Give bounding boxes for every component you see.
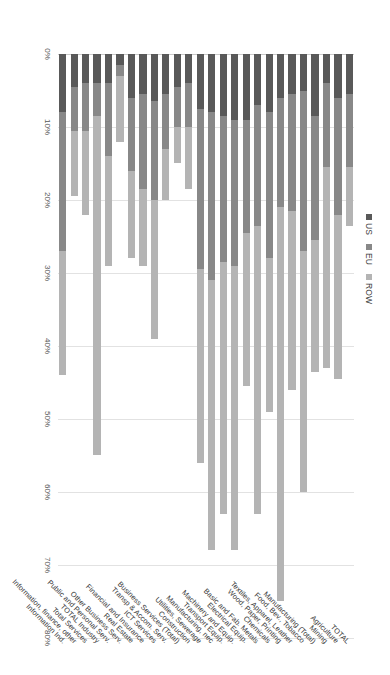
stacked-bar[interactable] — [82, 54, 89, 215]
bar-segment-row — [231, 266, 238, 551]
bar-row[interactable] — [116, 54, 123, 638]
stacked-bar[interactable] — [300, 54, 307, 492]
bar-segment-us — [197, 54, 204, 109]
axis-tick-label: 70% — [43, 557, 52, 573]
bar-segment-eu — [266, 112, 273, 258]
plot-area — [58, 54, 354, 638]
bar-segment-row — [197, 269, 204, 462]
bar-row[interactable] — [197, 54, 204, 638]
stacked-bar[interactable] — [197, 54, 204, 463]
stacked-bar[interactable] — [71, 54, 78, 196]
bar-segment-us — [162, 54, 169, 94]
bar-segment-row — [82, 131, 89, 215]
bar-row[interactable] — [128, 54, 135, 638]
bar-row[interactable] — [71, 54, 78, 638]
stacked-bar[interactable] — [323, 54, 330, 368]
axis-tick-label: 30% — [43, 265, 52, 281]
bar-row[interactable] — [334, 54, 341, 638]
bar-segment-row — [323, 167, 330, 368]
bar-segment-row — [266, 258, 273, 411]
stacked-bar[interactable] — [116, 54, 123, 142]
bar-segment-us — [288, 54, 295, 94]
stacked-bar[interactable] — [311, 54, 318, 372]
stacked-bar[interactable] — [105, 54, 112, 266]
bar-segment-us — [59, 54, 66, 112]
bar-segment-row — [334, 215, 341, 379]
stacked-bar[interactable] — [128, 54, 135, 258]
stacked-bar[interactable] — [334, 54, 341, 379]
bar-row[interactable] — [139, 54, 146, 638]
bar-segment-eu — [288, 94, 295, 211]
bar-row[interactable] — [300, 54, 307, 638]
stacked-bar[interactable] — [346, 54, 353, 226]
bar-segment-eu — [162, 94, 169, 149]
legend-label-row: ROW — [364, 283, 374, 304]
bar-segment-row — [311, 240, 318, 371]
axis-tick-label: 60% — [43, 484, 52, 500]
bar-row[interactable] — [220, 54, 227, 638]
bar-series-container — [58, 54, 354, 638]
bar-row[interactable] — [94, 54, 101, 638]
legend-item-eu: EU — [364, 244, 374, 265]
bar-row[interactable] — [185, 54, 192, 638]
bar-segment-row — [208, 280, 215, 550]
bar-segment-us — [151, 54, 158, 101]
bar-segment-eu — [311, 116, 318, 240]
stacked-bar[interactable] — [94, 54, 101, 455]
bar-row[interactable] — [231, 54, 238, 638]
stacked-bar[interactable] — [220, 54, 227, 514]
bar-segment-row — [71, 131, 78, 197]
bar-row[interactable] — [288, 54, 295, 638]
bar-row[interactable] — [254, 54, 261, 638]
bar-segment-eu — [71, 87, 78, 131]
bar-segment-row — [94, 116, 101, 455]
bar-segment-eu — [323, 83, 330, 167]
stacked-bar[interactable] — [254, 54, 261, 514]
stacked-bar[interactable] — [277, 54, 284, 601]
bar-segment-row — [254, 226, 261, 514]
bar-row[interactable] — [105, 54, 112, 638]
stacked-bar[interactable] — [288, 54, 295, 390]
bar-segment-row — [174, 127, 181, 164]
stacked-bar[interactable] — [185, 54, 192, 189]
stacked-bar[interactable] — [208, 54, 215, 550]
bar-segment-us — [231, 54, 238, 120]
chart-rotation-wrapper: US EU ROW TOTALAgricultureMiningManufact… — [0, 0, 390, 675]
bar-segment-eu — [82, 83, 89, 130]
legend-label-us: US — [364, 223, 374, 235]
bar-segment-eu — [334, 98, 341, 215]
bar-row[interactable] — [59, 54, 66, 638]
stacked-bar[interactable] — [151, 54, 158, 339]
bar-row[interactable] — [323, 54, 330, 638]
legend-swatch-us-icon — [366, 214, 372, 220]
bar-row[interactable] — [277, 54, 284, 638]
bar-segment-row — [300, 251, 307, 492]
axis-tick-label: 20% — [43, 192, 52, 208]
bar-row[interactable] — [162, 54, 169, 638]
bar-segment-row — [139, 189, 146, 266]
bar-row[interactable] — [243, 54, 250, 638]
stacked-bar[interactable] — [243, 54, 250, 386]
bar-row[interactable] — [311, 54, 318, 638]
bar-row[interactable] — [208, 54, 215, 638]
stacked-bar[interactable] — [266, 54, 273, 412]
bar-row[interactable] — [346, 54, 353, 638]
stacked-bar[interactable] — [162, 54, 169, 200]
value-axis-ticks: 0%10%20%30%40%50%60%70%80% — [28, 54, 54, 638]
bar-segment-row — [220, 262, 227, 514]
bar-row[interactable] — [174, 54, 181, 638]
bar-segment-eu — [300, 91, 307, 252]
bar-segment-us — [116, 54, 123, 65]
bar-segment-us — [185, 54, 192, 83]
bar-row[interactable] — [266, 54, 273, 638]
stacked-bar[interactable] — [231, 54, 238, 550]
stacked-bar[interactable] — [59, 54, 66, 375]
chart-legend: US EU ROW — [364, 214, 374, 304]
bar-segment-row — [185, 127, 192, 189]
bar-segment-us — [266, 54, 273, 112]
stacked-bar[interactable] — [174, 54, 181, 163]
bar-row[interactable] — [82, 54, 89, 638]
legend-swatch-row-icon — [366, 274, 372, 280]
bar-row[interactable] — [151, 54, 158, 638]
stacked-bar[interactable] — [139, 54, 146, 266]
